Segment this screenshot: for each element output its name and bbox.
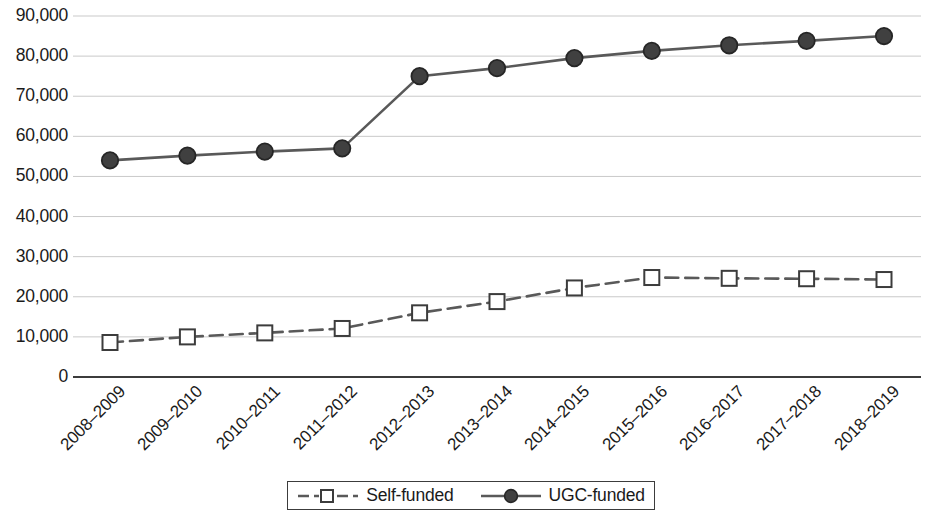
data-point-marker	[257, 325, 272, 340]
data-point-marker	[722, 271, 737, 286]
legend-entry-self-funded[interactable]: Self-funded	[297, 487, 453, 505]
data-point-marker	[799, 271, 814, 286]
dashed-line-open-square-marker-icon	[297, 487, 359, 505]
data-point-marker	[257, 143, 273, 159]
data-point-marker	[877, 272, 892, 287]
data-point-marker	[103, 335, 118, 350]
data-point-marker	[644, 43, 660, 59]
data-point-marker	[334, 140, 350, 156]
data-point-marker	[412, 305, 427, 320]
data-point-marker	[798, 33, 814, 49]
data-point-marker	[180, 329, 195, 344]
series-line	[110, 36, 884, 160]
series-markers	[102, 28, 892, 350]
line-chart: 010,00020,00030,00040,00050,00060,00070,…	[0, 0, 926, 512]
data-point-marker	[567, 280, 582, 295]
data-point-marker	[335, 321, 350, 336]
data-point-marker	[411, 68, 427, 84]
data-point-marker	[489, 60, 505, 76]
data-point-marker	[490, 294, 505, 309]
legend-label-ugc-funded: UGC-funded	[549, 487, 645, 505]
legend-label-self-funded: Self-funded	[366, 487, 453, 505]
data-point-marker	[721, 37, 737, 53]
data-point-marker	[102, 152, 118, 168]
chart-legend: Self-funded UGC-funded	[287, 481, 655, 510]
legend-entry-ugc-funded[interactable]: UGC-funded	[480, 487, 645, 505]
data-point-marker	[876, 28, 892, 44]
data-point-marker	[179, 147, 195, 163]
solid-line-filled-circle-marker-icon	[480, 487, 542, 505]
data-point-marker	[566, 50, 582, 66]
data-point-marker	[644, 270, 659, 285]
